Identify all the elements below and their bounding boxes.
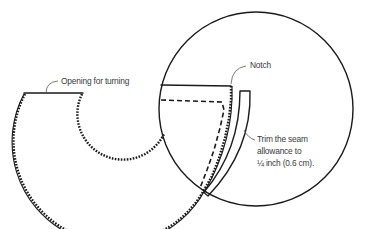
- sewing-diagram: [0, 0, 372, 229]
- trim-seam-label-line3: ¼ inch (0.6 cm).: [257, 157, 314, 170]
- pocket-top-edge: [161, 85, 231, 86]
- trim-seam-label-line1: Trim the seam: [257, 133, 308, 146]
- notch-label: Notch: [250, 59, 271, 72]
- ring-inner-arc: [77, 94, 164, 160]
- circle-piece-outline: [159, 12, 353, 206]
- notch-leader-line: [231, 66, 246, 84]
- opening-for-turning-label: Opening for turning: [61, 75, 129, 88]
- ring-outer-arc: [13, 94, 205, 229]
- trim-seam-label-line2: allowance to: [257, 145, 301, 158]
- opening-leader-line: [46, 81, 58, 93]
- pocket-stitch-dashed: [161, 100, 224, 188]
